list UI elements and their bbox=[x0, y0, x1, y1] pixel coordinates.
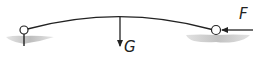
right-ground bbox=[186, 35, 250, 43]
weight-label: G bbox=[124, 40, 136, 55]
right-joint-circle bbox=[212, 26, 221, 35]
statics-diagram bbox=[0, 0, 260, 74]
force-label: F bbox=[239, 7, 248, 22]
left-ground bbox=[6, 36, 54, 44]
left-pin-circle bbox=[20, 26, 28, 34]
